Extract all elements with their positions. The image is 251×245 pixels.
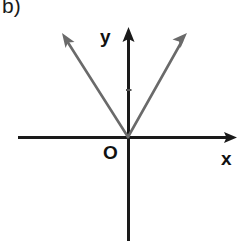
part-label: b) — [2, 0, 21, 16]
graph-left-ray-arrowhead — [62, 33, 75, 48]
graph-right-ray — [128, 41, 182, 137]
figure-canvas: b) y x O — [0, 0, 251, 245]
graph-left-ray — [67, 41, 128, 137]
y-axis-label: y — [100, 27, 111, 46]
x-axis-label: x — [221, 149, 232, 168]
coordinate-plane-graphic — [0, 0, 251, 245]
origin-label: O — [103, 143, 118, 162]
